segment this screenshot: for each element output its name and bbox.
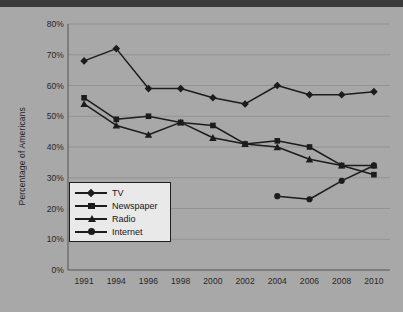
- square-marker-icon: [88, 203, 95, 210]
- diamond-marker: [370, 88, 378, 96]
- square-marker: [371, 172, 377, 178]
- legend-item-newspaper[interactable]: Newspaper: [74, 199, 166, 212]
- series-line-tv: [84, 49, 374, 104]
- triangle-marker: [209, 134, 216, 141]
- circle-marker-icon: [88, 228, 95, 235]
- legend-label: Radio: [108, 214, 136, 224]
- square-marker: [210, 123, 216, 129]
- diamond-marker: [177, 85, 185, 93]
- legend-label: TV: [108, 188, 124, 198]
- legend-marker-sample: [74, 199, 108, 212]
- circle-marker: [306, 196, 312, 202]
- diamond-marker-icon: [87, 188, 95, 196]
- legend-item-internet[interactable]: Internet: [74, 225, 166, 238]
- diamond-marker: [241, 100, 249, 108]
- diamond-marker: [338, 91, 346, 99]
- series-markers: [80, 45, 377, 203]
- legend-label: Newspaper: [108, 201, 158, 211]
- line-chart: Percentage of Americans 0%10%20%30%40%50…: [0, 0, 403, 312]
- circle-marker: [371, 162, 377, 168]
- legend-marker-sample: [74, 225, 108, 238]
- triangle-marker-icon: [88, 215, 96, 222]
- chart-legend[interactable]: TVNewspaperRadioInternet: [69, 182, 171, 242]
- diamond-marker: [209, 94, 217, 102]
- triangle-marker: [80, 100, 87, 107]
- square-marker: [146, 113, 152, 119]
- triangle-marker: [113, 122, 120, 129]
- series-lines: [84, 49, 374, 200]
- diamond-marker: [306, 91, 314, 99]
- square-marker: [114, 117, 120, 123]
- circle-marker: [339, 178, 345, 184]
- legend-marker-sample: [74, 186, 108, 199]
- legend-label: Internet: [108, 227, 143, 237]
- square-marker: [81, 95, 87, 101]
- legend-marker-sample: [74, 212, 108, 225]
- square-marker: [307, 144, 313, 150]
- circle-marker: [274, 193, 280, 199]
- legend-item-radio[interactable]: Radio: [74, 212, 166, 225]
- plot-area: [0, 0, 403, 312]
- x-axis-tick-label: 2010: [354, 276, 394, 286]
- diamond-marker: [80, 57, 88, 65]
- diamond-marker: [274, 82, 282, 90]
- legend-item-tv[interactable]: TV: [74, 186, 166, 199]
- x-axis-tick-labels: 1991199419961998200020022004200620082010: [0, 276, 403, 296]
- square-marker: [275, 138, 281, 144]
